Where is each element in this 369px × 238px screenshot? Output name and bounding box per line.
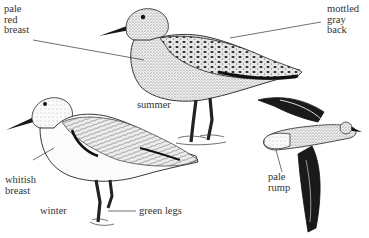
label-pale-rump: pale rump [268, 172, 290, 193]
label-line: whitish [5, 175, 36, 186]
illustration-canvas: pale red breast mottled gray back summer… [0, 0, 369, 238]
label-line: pale [268, 172, 290, 183]
bird-illustrations [0, 0, 369, 238]
caption-summer: summer [137, 100, 171, 111]
label-mottled-gray-back: mottled gray back [327, 4, 359, 36]
label-line: rump [268, 183, 290, 194]
caption-winter: winter [40, 206, 67, 217]
label-line: pale [4, 4, 29, 15]
leader-flight-rump [276, 150, 282, 172]
label-green-legs: green legs [139, 206, 182, 217]
caption-text: winter [40, 206, 67, 217]
label-line: back [327, 25, 359, 36]
caption-text: summer [137, 100, 171, 111]
label-line: breast [5, 186, 36, 197]
flight-bird [258, 98, 362, 232]
leader-summer-back [230, 22, 321, 38]
leader-summer-breast [33, 40, 144, 60]
label-line: green legs [139, 206, 182, 217]
label-line: breast [4, 25, 29, 36]
label-whitish-breast: whitish breast [5, 175, 36, 196]
label-line: mottled [327, 4, 359, 15]
label-pale-red-breast: pale red breast [4, 4, 29, 36]
